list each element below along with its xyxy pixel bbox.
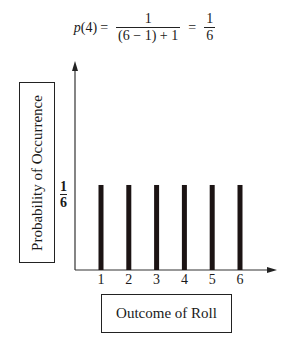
- x-axis-arrow-icon: [267, 267, 277, 273]
- y-tick-one-sixth: 1 6: [60, 179, 67, 211]
- bar-outcome-3: [154, 185, 159, 270]
- x-tick-label: 2: [122, 272, 136, 288]
- y-axis-arrow-icon: [72, 61, 78, 71]
- x-tick-label: 6: [233, 272, 247, 288]
- x-tick-label: 3: [150, 272, 164, 288]
- x-axis-label: Outcome of Roll: [116, 305, 217, 322]
- y-tick-denominator: 6: [60, 194, 67, 210]
- x-tick-label: 1: [94, 272, 108, 288]
- x-tick-label: 5: [205, 272, 219, 288]
- bar-outcome-1: [99, 185, 104, 270]
- x-axis-label-box: Outcome of Roll: [101, 294, 232, 333]
- bar-outcome-5: [210, 185, 215, 270]
- bar-outcome-6: [238, 185, 243, 270]
- y-axis-label: Probability of Occurrence: [29, 95, 46, 251]
- bars: [99, 185, 243, 270]
- y-axis-label-box: Probability of Occurrence: [19, 82, 55, 263]
- bar-outcome-4: [182, 185, 187, 270]
- x-tick-label: 4: [177, 272, 191, 288]
- bar-outcome-2: [126, 185, 131, 270]
- y-tick-numerator: 1: [60, 179, 67, 194]
